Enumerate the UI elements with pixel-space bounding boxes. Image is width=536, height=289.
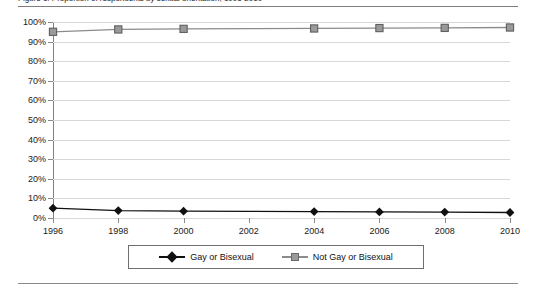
y-axis-tick-label: 80% xyxy=(28,57,46,66)
y-axis-tick-label: 20% xyxy=(28,175,46,184)
y-axis-tick-label: 0% xyxy=(33,214,46,223)
data-point-not-gay-or-bisexual-2010 xyxy=(506,24,513,31)
data-point-not-gay-or-bisexual-2008 xyxy=(441,24,448,31)
x-axis-tick-label: 2008 xyxy=(435,226,455,236)
figure-container: Figure 1. Proportion of respondents by s… xyxy=(0,0,536,289)
figure-top-rule xyxy=(18,6,518,7)
figure-bottom-rule xyxy=(18,283,518,284)
x-axis-tick-label: 1998 xyxy=(108,226,128,236)
legend-item-not-gay-or-bisexual[interactable]: Not Gay or Bisexual xyxy=(282,252,393,262)
data-point-not-gay-or-bisexual-2004 xyxy=(311,25,318,32)
data-point-gay-or-bisexual-2000 xyxy=(179,207,188,216)
data-point-not-gay-or-bisexual-2000 xyxy=(180,25,187,32)
x-axis-tick-label: 2006 xyxy=(369,226,389,236)
x-axis-tick-label: 2004 xyxy=(304,226,324,236)
legend-label-gay-or-bisexual: Gay or Bisexual xyxy=(190,252,254,262)
y-axis-tick-label: 60% xyxy=(28,96,46,105)
y-axis-tick-label: 90% xyxy=(28,38,46,47)
figure-caption: Figure 1. Proportion of respondents by s… xyxy=(18,0,518,4)
data-point-gay-or-bisexual-1996 xyxy=(49,204,58,213)
legend-marker-square-icon xyxy=(282,252,308,262)
data-point-not-gay-or-bisexual-1998 xyxy=(115,26,122,33)
x-axis-tick-label: 1996 xyxy=(43,226,63,236)
x-axis-tick-label: 2010 xyxy=(500,226,520,236)
y-axis-tick-label: 30% xyxy=(28,155,46,164)
x-axis-tick xyxy=(118,218,119,223)
legend-marker-diamond-icon xyxy=(159,252,185,262)
y-axis-tick-label: 100% xyxy=(23,18,46,27)
legend-item-gay-or-bisexual[interactable]: Gay or Bisexual xyxy=(159,252,254,262)
data-point-not-gay-or-bisexual-2006 xyxy=(376,24,383,31)
y-axis-tick-label: 40% xyxy=(28,136,46,145)
y-axis-tick-label: 50% xyxy=(28,116,46,125)
x-axis-tick xyxy=(445,218,446,223)
y-axis-tick-label: 70% xyxy=(28,77,46,86)
data-point-gay-or-bisexual-1998 xyxy=(114,206,123,215)
series-group xyxy=(53,22,510,218)
x-axis-tick xyxy=(510,218,511,223)
x-axis-tick-label: 2000 xyxy=(174,226,194,236)
line-chart: 0%10%20%30%40%50%60%70%80%90%100% 199619… xyxy=(0,10,536,240)
chart-legend: Gay or Bisexual Not Gay or Bisexual xyxy=(128,245,424,269)
gridline xyxy=(53,218,510,219)
plot-area: 0%10%20%30%40%50%60%70%80%90%100% xyxy=(53,22,510,218)
x-axis-tick xyxy=(184,218,185,223)
legend-label-not-gay-or-bisexual: Not Gay or Bisexual xyxy=(313,252,393,262)
x-axis-tick xyxy=(53,218,54,223)
data-point-not-gay-or-bisexual-1996 xyxy=(49,28,56,35)
x-axis-tick xyxy=(314,218,315,223)
data-point-gay-or-bisexual-2008 xyxy=(440,208,449,217)
x-axis-tick xyxy=(249,218,250,223)
data-point-gay-or-bisexual-2004 xyxy=(310,207,319,216)
x-axis-tick xyxy=(379,218,380,223)
data-point-gay-or-bisexual-2006 xyxy=(375,208,384,217)
y-axis-tick-label: 10% xyxy=(28,194,46,203)
x-axis-tick-label: 2002 xyxy=(239,226,259,236)
data-point-gay-or-bisexual-2010 xyxy=(506,208,515,217)
